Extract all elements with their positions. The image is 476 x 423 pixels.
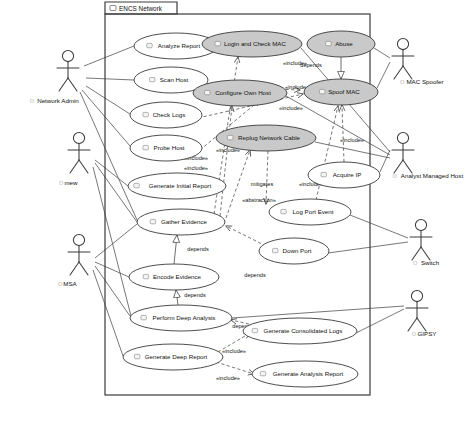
actor-stereotype-icon: ⚇ <box>58 281 63 287</box>
actor-stereotype-icon: ⚇ <box>400 79 405 85</box>
actor-mac-spoofer[interactable]: ⚇MAC Spoofer <box>392 38 444 85</box>
actor-stereotype-icon: ⚇ <box>413 260 418 266</box>
actor-stereotype-icon: ⚇ <box>59 180 64 186</box>
actor-head <box>73 132 84 143</box>
diagram-canvas: «include»«include»«include»«include»«inc… <box>0 0 476 423</box>
actor-head <box>397 38 408 49</box>
actor-stereotype-icon: ⚇ <box>392 173 397 179</box>
actor-label: GIPSY <box>418 330 437 337</box>
actor-label: mew <box>64 179 78 186</box>
actor-leg-left <box>394 66 403 79</box>
actor-head <box>62 50 73 61</box>
actor-label: Network Admin <box>37 97 79 104</box>
actor-leg-right <box>79 262 88 275</box>
actor-leg-left <box>70 262 79 275</box>
actor-switch[interactable]: ⚇Switch <box>410 219 440 266</box>
actor-msa[interactable]: ⚇MSA <box>58 234 90 287</box>
actor-head <box>415 219 426 230</box>
actor-head <box>397 132 408 143</box>
actor-leg-left <box>59 78 68 91</box>
actor-label: MAC Spoofer <box>406 78 443 85</box>
actor-label: Switch <box>421 259 440 266</box>
actor-label: MSA <box>63 280 77 287</box>
actor-head <box>73 234 84 245</box>
actor-stereotype-icon: ⚇ <box>411 331 416 337</box>
actor-gipsy[interactable]: ⚇GIPSY <box>406 290 436 337</box>
actor-stereotype-icon: ⚇ <box>30 98 35 104</box>
actor-label: Analyst Managed Host <box>401 172 464 179</box>
actor-leg-left <box>70 160 79 173</box>
actor-network-admin[interactable]: ⚇Network Admin <box>30 50 80 104</box>
actor-head <box>411 290 422 301</box>
actor-layer: ⚇Network Admin⚇mew⚇MSA⚇MAC Spoofer⚇Analy… <box>0 0 476 423</box>
actor-leg-left <box>408 318 417 331</box>
actor-analyst-managed-host[interactable]: ⚇Analyst Managed Host <box>392 132 463 179</box>
actor-leg-left <box>412 247 421 260</box>
actor-leg-right <box>79 160 88 173</box>
actor-mew[interactable]: ⚇mew <box>59 132 90 186</box>
actor-leg-right <box>68 78 77 91</box>
